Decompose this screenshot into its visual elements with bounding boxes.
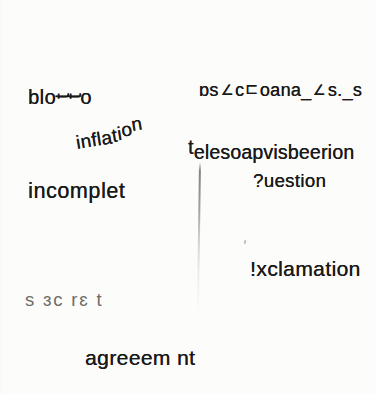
glyph-segment: s [209, 80, 218, 100]
glyph-segment: c [235, 80, 244, 100]
fold-line [197, 162, 201, 312]
word-blotto: blotto [28, 87, 92, 107]
glyph-segment: ⊏ [246, 81, 259, 96]
glyph-segment: incomplet [28, 179, 125, 203]
glyph-segment: oana [260, 80, 301, 100]
glyph-segment: infla [74, 126, 113, 152]
glyph-segment: _ [342, 80, 352, 100]
word-incomplete: incomplet [28, 181, 125, 203]
word-television-scramble: telesoapvisbeerion [188, 143, 354, 163]
word-scrambled-code: ɒs∠c⊏oana_∠s._s [199, 81, 362, 99]
glyph-segment: s [353, 80, 362, 100]
word-inflation: inflation [75, 122, 145, 151]
glyph-segment: s [328, 80, 337, 100]
glyph-segment: ∠ [313, 83, 326, 97]
word-exclamation: !xclamation [250, 258, 361, 279]
word-agreement: agreeem nt [85, 347, 195, 368]
glyph-segment: ɒ [199, 80, 209, 100]
glyph-segment: n [130, 114, 144, 134]
glyph-segment: agreeem nt [85, 346, 195, 369]
glyph-segment: _ [301, 80, 311, 100]
speck-mark [244, 240, 247, 244]
glyph-segment: !xclamation [250, 257, 361, 280]
glyph-segment: t [64, 93, 84, 99]
glyph-segment: ∠ [220, 83, 233, 97]
glyph-segment: s ɜc rɛ t [25, 289, 103, 310]
glyph-segment: t [188, 138, 194, 158]
glyph-segment: elesoapvisbeerion [194, 141, 355, 163]
glyph-segment: ?uestion [253, 170, 326, 191]
word-secret: s ɜc rɛ t [25, 291, 103, 310]
scan-page: blottoɒs∠c⊏oana_∠s._sinflationtelesoapvi… [0, 0, 376, 394]
word-question: ?uestion [253, 172, 326, 191]
